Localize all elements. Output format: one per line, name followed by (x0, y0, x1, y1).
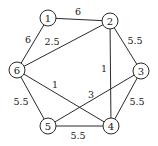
edge-weight-6-4: 1 (52, 79, 58, 90)
edge-5-3 (48, 71, 141, 126)
node-2: 2 (102, 13, 118, 29)
edge-2-3 (110, 21, 141, 71)
node-1: 1 (40, 10, 56, 26)
edge-weight-1-6: 6 (25, 34, 31, 45)
node-label: 2 (107, 16, 113, 27)
edge-6-2 (17, 21, 110, 70)
node-6: 6 (9, 62, 25, 78)
edge-weight-1-2: 6 (75, 6, 81, 17)
weighted-graph-diagram: 662.55.51135.55.55.5 123456 (0, 0, 158, 146)
edges-layer (17, 18, 141, 126)
edge-weight-3-4: 5.5 (129, 96, 144, 107)
edge-weight-2-3: 5.5 (127, 35, 142, 46)
edge-weight-6-5: 5.5 (13, 96, 28, 107)
edge-weight-5-3: 3 (88, 89, 94, 100)
nodes-layer: 123456 (9, 10, 149, 134)
edge-weight-5-4: 5.5 (70, 130, 85, 141)
node-label: 5 (45, 121, 51, 132)
node-4: 4 (103, 118, 119, 134)
edge-2-4 (110, 21, 111, 126)
node-3: 3 (133, 63, 149, 79)
edge-6-4 (17, 70, 111, 126)
node-label: 3 (138, 66, 144, 77)
node-5: 5 (40, 118, 56, 134)
edge-weight-6-2: 2.5 (44, 36, 59, 47)
edge-1-2 (48, 18, 110, 21)
edge-weight-2-4: 1 (101, 63, 107, 74)
node-label: 4 (108, 121, 114, 132)
node-label: 1 (45, 13, 51, 24)
node-label: 6 (14, 65, 20, 76)
edge-labels-layer: 662.55.51135.55.55.5 (13, 6, 144, 141)
